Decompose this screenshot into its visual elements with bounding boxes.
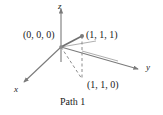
path-1-figure: z y x (0, 0, 0) (1, 1, 1) (1, 1, 0) Path… bbox=[0, 0, 163, 115]
y-axis-line bbox=[61, 47, 138, 69]
point-marker-origin bbox=[59, 45, 63, 49]
point-marker-111 bbox=[80, 34, 84, 38]
guide-line-to-y-axis-dashed bbox=[82, 51, 118, 61]
x-axis-line bbox=[24, 47, 61, 82]
y-axis-label: y bbox=[146, 63, 150, 72]
point-110-coordinate-label: (1, 1, 0) bbox=[87, 80, 119, 90]
x-axis-label: x bbox=[14, 85, 18, 94]
z-axis-label: z bbox=[58, 2, 62, 11]
origin-coordinate-label: (0, 0, 0) bbox=[23, 30, 55, 40]
figure-caption: Path 1 bbox=[60, 97, 85, 107]
point-111-coordinate-label: (1, 1, 1) bbox=[86, 30, 118, 40]
